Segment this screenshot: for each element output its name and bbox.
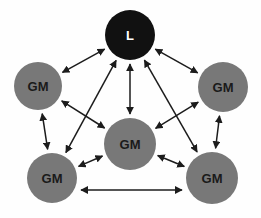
- node-gm-upper-right[interactable]: GM: [198, 62, 248, 112]
- edge-gm-upper-left-gm-center: [62, 101, 105, 128]
- edge-gm-upper-right-gm-center: [156, 102, 199, 128]
- node-gm-upper-left[interactable]: GM: [14, 62, 62, 110]
- node-gm-lower-right[interactable]: GM: [186, 152, 238, 204]
- node-circle-gm-center[interactable]: [104, 118, 156, 170]
- node-circle-gm-upper-right[interactable]: [198, 62, 248, 112]
- node-gm-center[interactable]: GM: [104, 118, 156, 170]
- diagram-canvas: LGMGMGMGMGM: [0, 0, 261, 218]
- edge-gm-lower-right-gm-center: [158, 155, 185, 166]
- node-circle-gm-lower-right[interactable]: [186, 152, 238, 204]
- edge-gm-lower-left-gm-center: [79, 156, 103, 166]
- node-circle-gm-upper-left[interactable]: [14, 62, 62, 110]
- edge-leader-gm-upper-left: [62, 49, 104, 72]
- edge-gm-upper-left-gm-lower-left: [42, 114, 47, 150]
- node-circle-gm-lower-left[interactable]: [27, 153, 77, 203]
- node-circle-leader[interactable]: [105, 10, 155, 60]
- network-diagram: LGMGMGMGMGM: [0, 0, 261, 218]
- node-leader[interactable]: L: [105, 10, 155, 60]
- edge-leader-gm-upper-right: [155, 49, 197, 73]
- node-gm-lower-left[interactable]: GM: [27, 153, 77, 203]
- nodes-layer: LGMGMGMGMGM: [14, 10, 248, 204]
- edge-gm-upper-right-gm-lower-right: [216, 116, 220, 148]
